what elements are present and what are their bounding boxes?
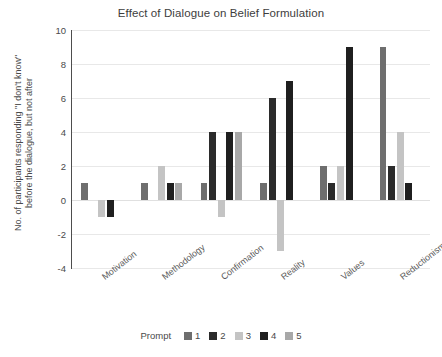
y-tick-label: 10 [28,25,66,36]
bar-group [191,30,251,268]
legend-item-5[interactable]: 5 [285,330,301,341]
y-tick-label: 2 [28,161,66,172]
bar [380,47,387,200]
legend-swatch-icon [235,332,243,340]
bar [175,183,182,200]
legend-label: 5 [296,330,301,341]
x-tick-label: Methodology [160,274,166,282]
bar [167,183,174,200]
bar [158,166,165,200]
legend-item-2[interactable]: 2 [209,330,225,341]
legend-label: 3 [246,330,251,341]
bar [260,183,267,200]
bar [201,183,208,200]
bar [98,200,105,217]
bar [388,166,395,200]
y-tick-label: 8 [28,59,66,70]
bar [397,132,404,200]
legend-label: 2 [220,330,225,341]
legend-item-3[interactable]: 3 [235,330,251,341]
y-tick-label: 4 [28,127,66,138]
legend-title: Prompt [140,330,171,341]
y-tick-label: -4 [28,263,66,274]
legend-label: 1 [195,330,200,341]
x-tick-label: Values [339,274,345,282]
x-tick-label: Reality [279,274,285,282]
bar [286,81,293,200]
chart-legend: Prompt 12345 [0,330,442,341]
x-axis-ticks: MotivationMethodologyConfirmationReality… [72,272,430,322]
bar-group [132,30,192,268]
x-tick-label: Motivation [100,274,106,282]
bar [328,183,335,200]
bar-group [72,30,132,268]
bar [277,200,284,251]
x-tick-label: Confirmation [219,274,225,282]
plot-area [72,30,430,268]
bar [81,183,88,200]
legend-item-1[interactable]: 1 [184,330,200,341]
gridline [72,268,430,269]
legend-swatch-icon [285,332,293,340]
chart-figure: Effect of Dialogue on Belief Formulation… [0,0,442,357]
y-tick-label: 6 [28,93,66,104]
y-tick-label: 0 [28,195,66,206]
legend-items: 12345 [184,330,301,341]
bar [346,47,353,200]
bar [218,200,225,217]
x-tick-label: Reductionism [398,274,404,282]
bar [209,132,216,200]
legend-swatch-icon [209,332,217,340]
bar-group [311,30,371,268]
y-axis-spine [71,30,72,269]
bar-group [370,30,430,268]
legend-label: 4 [271,330,276,341]
bar [107,200,114,217]
bar [226,132,233,200]
bar [269,98,276,200]
legend-swatch-icon [260,332,268,340]
bar [405,183,412,200]
legend-swatch-icon [184,332,192,340]
chart-title: Effect of Dialogue on Belief Formulation [0,7,442,19]
bar [337,166,344,200]
legend-item-4[interactable]: 4 [260,330,276,341]
bar [141,183,148,200]
bar-group [251,30,311,268]
bar [235,132,242,200]
y-tick-label: -2 [28,229,66,240]
bar [320,166,327,200]
